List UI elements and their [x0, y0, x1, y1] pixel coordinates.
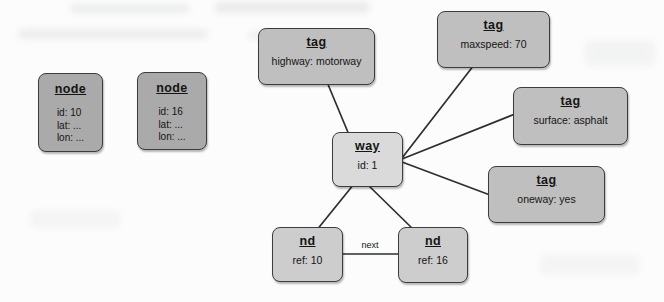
edge-way-nd-16 [367, 184, 415, 231]
box-title: tag [438, 12, 549, 32]
box-title: way [333, 133, 402, 153]
tag-box-maxspeed: tag maxspeed: 70 [437, 11, 550, 68]
way-box-1: way id: 1 [332, 132, 403, 187]
box-body: highway: motorway [272, 55, 362, 68]
box-line: lon: ... [158, 131, 185, 144]
edge-label-next: next [350, 240, 390, 250]
box-title: tag [489, 167, 604, 187]
box-body: ref: 16 [418, 254, 448, 267]
box-body: id: 1 [358, 159, 378, 172]
box-body: oneway: yes [517, 193, 575, 206]
node-box-16: node id: 16 lat: ... lon: ... [137, 72, 207, 150]
box-line: id: 1 [358, 159, 378, 172]
box-body: ref: 10 [293, 254, 323, 267]
tag-box-oneway: tag oneway: yes [488, 166, 605, 223]
box-line: surface: asphalt [533, 114, 607, 127]
box-line: ref: 16 [418, 254, 448, 267]
box-line: lon: ... [57, 132, 84, 145]
nd-box-10: nd ref: 10 [272, 227, 343, 282]
box-title: tag [259, 29, 374, 49]
box-line: ref: 10 [293, 254, 323, 267]
tag-box-surface: tag surface: asphalt [513, 87, 628, 145]
box-line: maxspeed: 70 [461, 38, 527, 51]
box-body: id: 10 lat: ... lon: ... [57, 107, 84, 145]
box-title: node [138, 73, 206, 95]
box-line: id: 16 [158, 106, 185, 119]
box-line: lat: ... [158, 119, 185, 132]
box-title: nd [399, 228, 467, 248]
node-box-10: node id: 10 lat: ... lon: ... [38, 73, 103, 152]
nd-box-16: nd ref: 16 [398, 227, 468, 283]
edge-tag-oneway-way [402, 162, 490, 195]
scanned-diagram-page: next node id: 10 lat: ... lon: ... node … [0, 0, 664, 302]
box-body: surface: asphalt [533, 114, 607, 127]
box-line: highway: motorway [272, 55, 362, 68]
tag-box-highway: tag highway: motorway [258, 28, 375, 85]
box-title: node [39, 74, 102, 96]
box-line: id: 10 [57, 107, 84, 120]
box-body: maxspeed: 70 [461, 38, 527, 51]
edge-way-nd-10 [316, 184, 354, 231]
box-line: oneway: yes [517, 193, 575, 206]
box-title: nd [273, 228, 342, 248]
box-title: tag [514, 88, 627, 108]
box-line: lat: ... [57, 120, 84, 133]
box-body: id: 16 lat: ... lon: ... [158, 106, 185, 144]
